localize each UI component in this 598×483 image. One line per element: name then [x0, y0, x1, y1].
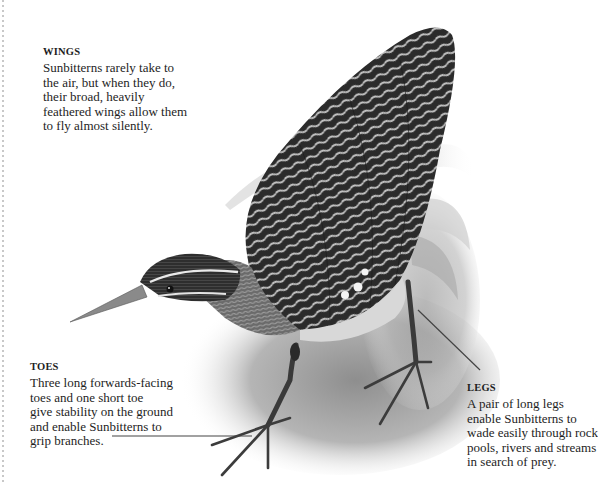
toes-text-line: give stability on the ground — [30, 405, 173, 419]
bill — [70, 285, 147, 322]
toes-text-line: toes and one short toe — [30, 391, 173, 405]
legs-caption: LEGS A pair of long legs enable Sunbitte… — [467, 381, 598, 469]
legs-text-line: enable Sunbitterns to — [467, 412, 598, 426]
wings-heading: WINGS — [43, 45, 187, 59]
toes-text-line: Three long forwards-facing — [30, 376, 173, 390]
wings-text-line: to fly almost silently. — [43, 119, 187, 133]
legs-text-line: pools, rivers and streams — [467, 441, 598, 455]
toes-text-line: grip branches. — [30, 434, 173, 448]
toes-caption: TOES Three long forwards-facing toes and… — [30, 360, 173, 448]
legs-text-line: wade easily through rock — [467, 426, 598, 440]
legs-heading: LEGS — [467, 381, 598, 395]
wings-text-line: the air, but when they do, — [43, 76, 187, 90]
toes-text-line: and enable Sunbitterns to — [30, 420, 173, 434]
wings-text-line: Sunbitterns rarely take to — [43, 61, 187, 75]
wings-text-line: feathered wings allow them — [43, 105, 187, 119]
eye — [167, 286, 174, 293]
legs-text-line: A pair of long legs — [467, 397, 598, 411]
toes-heading: TOES — [30, 360, 173, 374]
legs-text-line: in search of prey. — [467, 455, 598, 469]
wings-caption: WINGS Sunbitterns rarely take to the air… — [43, 45, 187, 133]
wings-text-line: their broad, heavily — [43, 90, 187, 104]
